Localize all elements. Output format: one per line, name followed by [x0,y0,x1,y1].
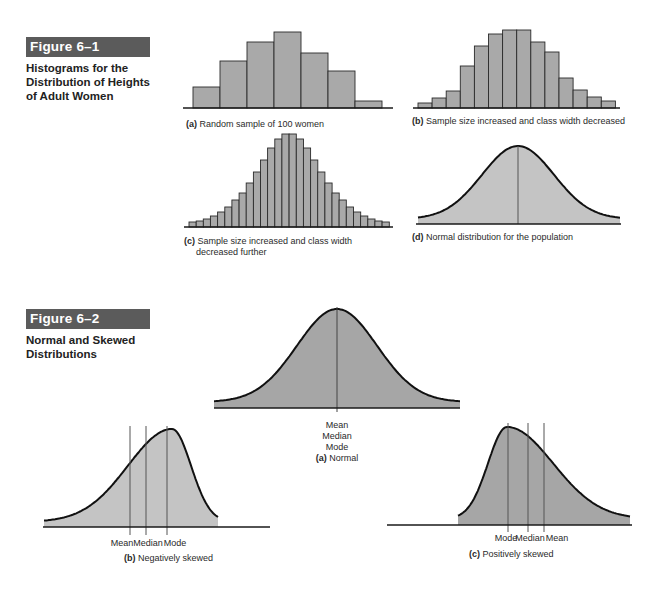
histogram-bar [303,148,310,227]
histogram-bar [531,42,545,108]
histogram-1c [189,134,389,227]
histogram-bar [355,101,382,108]
histogram-bar [282,134,289,227]
caption-1a: (a) Random sample of 100 women [186,119,324,129]
caption-2a: (a) Normal [316,453,359,463]
label-median-2c: Median [515,533,545,543]
histogram-bar [354,212,361,227]
histogram-bar [559,78,573,108]
histogram-bar [375,221,382,227]
histogram-bar [325,183,332,227]
histogram-1a [193,32,382,108]
label-mean-2b: Mean [111,538,134,548]
label-median-2a: Median [322,431,352,441]
histogram-bar [196,221,203,227]
caption-2b: (b) Negatively skewed [124,553,213,563]
histogram-1b [418,30,615,108]
histogram-bar [573,90,587,108]
histogram-bar [368,219,375,227]
histogram-bar [275,139,282,227]
histogram-bar [253,172,260,227]
histogram-bar [339,200,346,227]
histogram-bar [193,87,220,108]
label-mean-2a: Mean [326,420,349,430]
histogram-bar [311,160,318,227]
histogram-bar [517,30,531,108]
label-mode-2b: Mode [164,538,187,548]
caption-1b: (b) Sample size increased and class widt… [412,116,625,126]
label-mode-2c: Mode [495,533,518,543]
histogram-bar [203,219,210,227]
caption-1c-line2: decreased further [196,247,267,257]
histogram-bar [268,148,275,227]
histogram-bar [261,160,268,227]
histogram-bar [545,52,559,108]
histogram-bar [220,61,247,108]
histogram-bar [274,32,301,108]
label-mean-2c: Mean [546,533,569,543]
histogram-bar [346,207,353,227]
histogram-bar [289,134,296,227]
histogram-bar [210,216,217,227]
histogram-bar [239,193,246,227]
label-median-2b: Median [133,538,163,548]
histogram-bar [460,66,474,108]
figures-canvas: (a) Random sample of 100 women (b) Sampl… [0,0,652,590]
histogram-bar [474,46,488,108]
curve-fill-2b [44,429,218,527]
caption-2c: (c) Positively skewed [469,549,554,559]
histogram-bar [296,139,303,227]
histogram-bar [225,207,232,227]
caption-1d: (d) Normal distribution for the populati… [412,232,573,242]
histogram-bar [489,34,503,108]
histogram-bar [246,183,253,227]
histogram-bar [328,71,355,108]
histogram-bar [503,30,517,108]
histogram-bar [247,42,274,108]
histogram-bar [332,193,339,227]
label-mode-2a: Mode [326,442,349,452]
histogram-bar [232,200,239,227]
histogram-bar [301,53,328,108]
histogram-bar [218,212,225,227]
histogram-bar [318,172,325,227]
histogram-bar [432,98,446,108]
curve-fill-1d [418,146,620,224]
histogram-bar [601,101,615,108]
caption-1c: (c) Sample size increased and class widt… [184,236,352,246]
histogram-bar [587,97,601,108]
histogram-bar [446,91,460,108]
histogram-bar [361,216,368,227]
